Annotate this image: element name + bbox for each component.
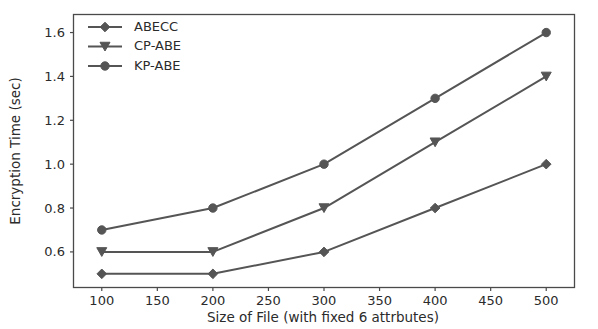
data-point	[319, 204, 329, 213]
legend-entry-abecc: ABECC	[88, 19, 178, 34]
y-axis-title: Encryption Time (sec)	[7, 77, 23, 224]
x-tick-label: 250	[256, 293, 281, 308]
chart-legend: ABECCCP-ABEKP-ABE	[88, 19, 181, 73]
data-point	[320, 160, 328, 168]
x-axis-title: Size of File (with fixed 6 attrbutes)	[207, 309, 439, 325]
data-point	[431, 94, 439, 102]
legend-swatch-marker	[101, 62, 109, 70]
legend-swatch-marker	[100, 22, 110, 32]
y-tick-label: 0.6	[44, 244, 65, 259]
line-chart: 0.60.81.01.21.41.6 100150200250300350400…	[0, 0, 598, 329]
data-point	[209, 204, 217, 212]
data-point	[430, 203, 440, 213]
y-tick-label: 1.0	[44, 157, 65, 172]
x-tick-label: 200	[200, 293, 225, 308]
legend-entry-kp-abe: KP-ABE	[88, 58, 181, 73]
legend-entry-cp-abe: CP-ABE	[88, 38, 181, 53]
x-tick-label: 450	[478, 293, 503, 308]
data-point	[541, 159, 551, 169]
series-abecc	[97, 159, 551, 278]
legend-label: CP-ABE	[134, 38, 181, 53]
data-point	[97, 269, 107, 279]
data-point	[208, 269, 218, 279]
legend-label: KP-ABE	[134, 58, 181, 73]
x-tick-label: 500	[534, 293, 559, 308]
y-axis-tick-labels: 0.60.81.01.21.41.6	[44, 25, 65, 259]
data-point	[98, 226, 106, 234]
y-tick-label: 1.2	[44, 113, 65, 128]
y-tick-label: 0.8	[44, 201, 65, 216]
y-tick-label: 1.4	[44, 69, 65, 84]
x-tick-label: 100	[89, 293, 114, 308]
legend-label: ABECC	[134, 19, 178, 34]
x-tick-label: 300	[312, 293, 337, 308]
data-point	[542, 28, 550, 36]
chart-figure: 0.60.81.01.21.41.6 100150200250300350400…	[0, 0, 598, 329]
data-point	[319, 247, 329, 257]
x-tick-label: 400	[423, 293, 448, 308]
x-axis-tick-labels: 100150200250300350400450500	[89, 293, 558, 308]
x-tick-label: 350	[367, 293, 392, 308]
y-tick-label: 1.6	[44, 25, 65, 40]
x-tick-label: 150	[145, 293, 170, 308]
